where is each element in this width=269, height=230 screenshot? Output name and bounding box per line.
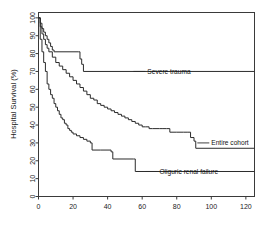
annotation-label: Severe trauma [147, 68, 191, 75]
plot-frame [39, 13, 255, 197]
survival-curve-severe-trauma [39, 18, 255, 72]
x-tick-label: 60 [138, 203, 146, 210]
y-tick-label: 90 [29, 32, 36, 40]
survival-curves [39, 18, 255, 172]
y-tick-label: 100 [29, 12, 36, 24]
curve-annotations: Severe traumaEntire cohortOliguric renal… [133, 68, 248, 176]
y-tick-label: 30 [29, 139, 36, 147]
x-axis-tick-labels: 020406080100120 [37, 203, 252, 210]
y-tick-label: 10 [29, 175, 36, 183]
annotation-label: Oliguric renal failure [159, 168, 218, 176]
y-axis-title: Hospital Survival (%) [9, 69, 18, 139]
x-tick-label: 120 [240, 203, 252, 210]
survival-curve-entire-cohort [39, 18, 255, 148]
x-tick-label: 80 [173, 203, 181, 210]
annotation-severe-trauma: Severe trauma [133, 68, 191, 75]
x-tick-label: 40 [104, 203, 112, 210]
y-axis-tick-labels: 0102030405060708090100 [29, 12, 36, 199]
x-tick-label: 0 [37, 203, 41, 210]
y-tick-label: 80 [29, 50, 36, 58]
plot-canvas: 0102030405060708090100 020406080100120 H… [0, 0, 269, 230]
y-tick-label: 40 [29, 121, 36, 129]
annotation-entire-cohort: Entire cohort [197, 139, 249, 146]
survival-chart-figure: 0102030405060708090100 020406080100120 H… [0, 0, 269, 230]
y-tick-label: 50 [29, 103, 36, 111]
y-tick-label: 60 [29, 85, 36, 93]
y-tick-label: 20 [29, 157, 36, 165]
x-tick-label: 20 [69, 203, 77, 210]
y-tick-label: 70 [29, 67, 36, 75]
x-tick-label: 100 [205, 203, 217, 210]
y-tick-label: 0 [29, 194, 36, 198]
annotation-oliguric-renal-failure: Oliguric renal failure [145, 168, 218, 176]
annotation-label: Entire cohort [211, 139, 249, 146]
